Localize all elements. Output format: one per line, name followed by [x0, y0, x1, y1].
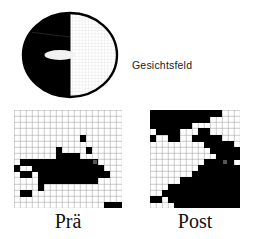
fovea-marker-icon — [45, 50, 76, 60]
gesichtsfeld-label: Gesichtsfeld — [132, 59, 192, 71]
seeing-hemifield-grid — [70, 11, 119, 99]
perimetry-grid-post — [150, 110, 240, 208]
panel-pre — [14, 110, 122, 208]
visual-field-diagram — [21, 11, 119, 99]
caption-pre: Prä — [14, 208, 122, 234]
caption-post: Post — [150, 208, 240, 234]
figure-root: Gesichtsfeld Prä Post — [0, 0, 257, 239]
visual-field-ellipse — [21, 11, 119, 99]
perimetry-grid-pre — [14, 110, 122, 208]
panel-post — [150, 110, 240, 208]
